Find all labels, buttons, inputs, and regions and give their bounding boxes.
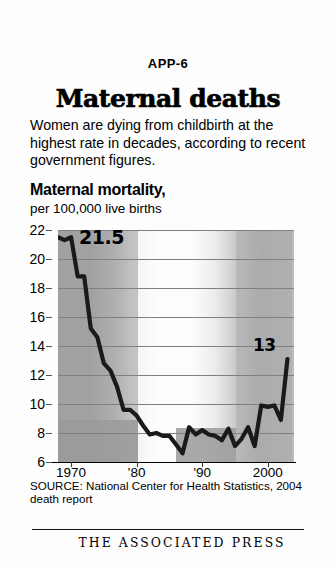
deck-text: Women are dying from childbirth at the h… (0, 113, 336, 170)
x-tick-label: '80 (128, 465, 146, 480)
x-tick-mark (202, 462, 203, 467)
infographic-page: APP-6 Maternal deaths Women are dying fr… (0, 0, 336, 568)
y-tick-mark (46, 230, 52, 231)
y-tick-label: 22 (29, 223, 45, 237)
y-tick-mark (46, 288, 52, 289)
y-tick-label: 12 (29, 368, 45, 382)
x-tick-label: '90 (193, 465, 211, 480)
x-tick-label: 1970 (56, 465, 86, 480)
y-tick-mark (46, 433, 52, 434)
annotation-latest: 13 (253, 335, 276, 355)
chart: 6810121416182022 1970'80'902000 21.5 13 (0, 222, 336, 477)
y-tick-mark (46, 404, 52, 405)
headline: Maternal deaths (0, 85, 336, 113)
y-tick-label: 18 (29, 281, 45, 295)
y-tick-label: 20 (29, 252, 45, 266)
y-tick-mark (46, 317, 52, 318)
y-tick-label: 16 (29, 310, 45, 324)
y-tick-label: 14 (29, 339, 45, 353)
x-tick-mark (137, 462, 138, 467)
y-tick-mark (46, 375, 52, 376)
chart-title: Maternal mortality, (0, 170, 336, 199)
x-tick-mark (71, 462, 72, 467)
page-slug: APP-6 (0, 0, 336, 71)
annotation-peak: 21.5 (79, 226, 124, 248)
x-axis-line (52, 462, 296, 464)
y-axis-labels: 6810121416182022 (0, 222, 52, 470)
x-tick-label: 2000 (253, 465, 283, 480)
x-tick-mark (268, 462, 269, 467)
y-tick-mark (46, 346, 52, 347)
y-tick-label: 10 (29, 397, 45, 411)
x-axis-labels: 1970'80'902000 (0, 465, 336, 485)
chart-subtitle: per 100,000 live births (0, 199, 336, 216)
y-tick-mark (46, 259, 52, 260)
ap-credit: THE ASSOCIATED PRESS (0, 535, 336, 550)
y-tick-label: 8 (37, 426, 45, 440)
footer-divider (32, 529, 304, 530)
